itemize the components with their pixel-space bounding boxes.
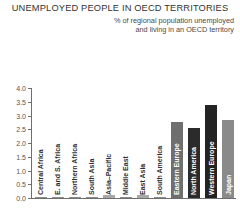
y-tick-label: 2.0 <box>16 140 26 147</box>
bar <box>137 195 149 198</box>
y-tick-mark <box>28 116 31 117</box>
y-tick-mark <box>28 143 31 144</box>
y-tick-mark <box>28 184 31 185</box>
y-tick-label: 1.5 <box>16 153 26 160</box>
bar <box>120 197 132 198</box>
category-label: Middle East <box>122 156 129 195</box>
category-label: North America <box>190 147 197 195</box>
y-tick-mark <box>28 171 31 172</box>
y-tick-label: 1.0 <box>16 167 26 174</box>
bar <box>52 197 64 198</box>
category-label: Eastern Europe <box>173 143 180 195</box>
plot-area: 0.00.51.01.52.02.53.03.54.0 Central Afri… <box>31 88 236 198</box>
chart-container: UNEMPLOYED PEOPLE IN OECD TERRITORIES % … <box>0 0 240 210</box>
y-tick-mark <box>28 129 31 130</box>
y-tick-mark <box>28 198 31 199</box>
x-axis-line <box>31 198 236 199</box>
bar <box>69 197 81 198</box>
y-tick-label: 0.5 <box>16 181 26 188</box>
bar <box>86 197 98 198</box>
category-label: South Asia <box>88 159 95 195</box>
category-label: Western Europe <box>208 141 215 195</box>
y-tick-label: 4.0 <box>16 85 26 92</box>
bar <box>103 195 115 198</box>
bar <box>35 197 47 198</box>
chart-title: UNEMPLOYED PEOPLE IN OECD TERRITORIES <box>0 3 240 13</box>
y-tick-mark <box>28 102 31 103</box>
category-label: Central Africa <box>37 149 44 195</box>
y-axis-line <box>31 88 32 198</box>
category-label: Japan <box>225 175 232 195</box>
category-label: E. and S. Africa <box>54 144 61 195</box>
chart-subtitle-line2: and living in an OECD territory <box>34 25 234 35</box>
y-tick-label: 0.0 <box>16 195 26 202</box>
y-tick-mark <box>28 157 31 158</box>
y-tick-label: 2.5 <box>16 126 26 133</box>
bar <box>154 197 166 198</box>
category-label: Northern Africa <box>71 144 78 195</box>
y-tick-mark <box>28 88 31 89</box>
category-label: Asia–Pacific <box>105 154 112 195</box>
y-tick-label: 3.5 <box>16 98 26 105</box>
category-label: East Asia <box>139 164 146 195</box>
y-tick-label: 3.0 <box>16 112 26 119</box>
category-label: South America <box>156 146 163 195</box>
